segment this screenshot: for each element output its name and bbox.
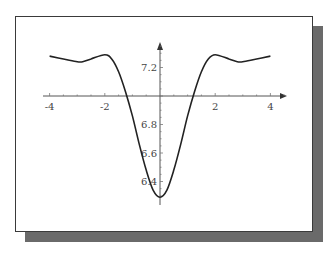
x-tick-label: -4 [45, 101, 55, 112]
chart-plot: -4-2247.26.86.66.4 [0, 0, 336, 254]
x-tick-label: 4 [267, 101, 273, 112]
x-axis-arrow-icon [280, 93, 287, 99]
y-tick-label: 7.2 [141, 62, 157, 73]
axes [43, 42, 287, 205]
tick-labels: -4-2247.26.86.66.4 [45, 62, 274, 187]
y-tick-label: 6.6 [141, 148, 157, 159]
ticks [50, 46, 285, 196]
x-tick-label: 2 [212, 101, 218, 112]
x-tick-label: -2 [100, 101, 110, 112]
y-tick-label: 6.8 [141, 119, 157, 130]
